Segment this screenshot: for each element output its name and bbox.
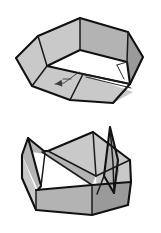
- edge-fold-right-upper: [127, 32, 128, 62]
- folded-box-diagram: [0, 0, 161, 233]
